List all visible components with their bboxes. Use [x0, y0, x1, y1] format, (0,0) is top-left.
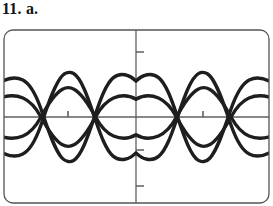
problem-number-label: 11. a.: [2, 0, 38, 19]
figure-root: 11. a.: [0, 0, 273, 206]
graphing-calculator-screen: [3, 29, 270, 204]
